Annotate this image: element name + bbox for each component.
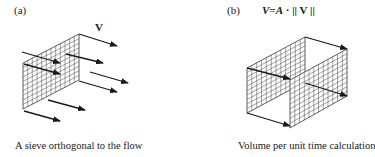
panel-a-caption: A sieve orthogonal to the flow: [15, 140, 142, 151]
vector-v-label: V: [95, 21, 103, 33]
panel-b: (b) V=A · || V ||: [180, 0, 367, 157]
sieve-diagram-a: [0, 0, 180, 157]
panel-b-caption: Volume per unit time calculation: [238, 140, 375, 151]
sieve-diagram-b: [180, 0, 367, 157]
panel-a: (a): [0, 0, 180, 157]
